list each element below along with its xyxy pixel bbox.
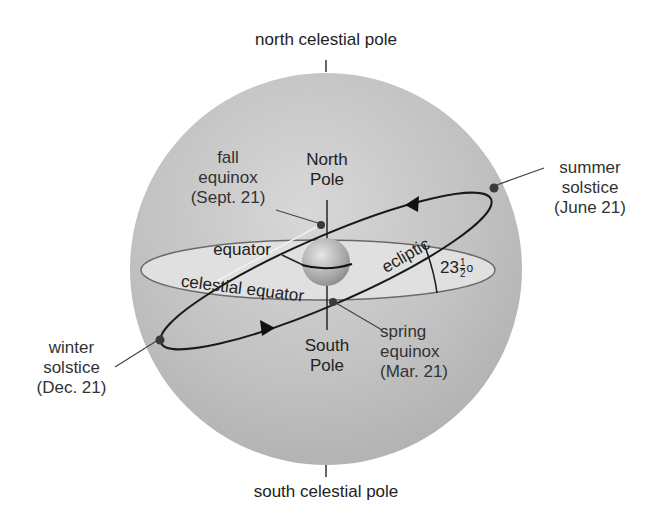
north-celestial-pole-label: north celestial pole bbox=[226, 30, 426, 50]
south-pole-line2: Pole bbox=[294, 356, 360, 376]
winter-solstice-line3: (Dec. 21) bbox=[24, 378, 119, 398]
south-celestial-pole-label: south celestial pole bbox=[226, 482, 426, 502]
summer-solstice-line1: summer bbox=[540, 158, 640, 178]
spring-equinox-point bbox=[329, 298, 337, 306]
winter-solstice-label: winter solstice (Dec. 21) bbox=[24, 338, 119, 398]
summer-solstice-point bbox=[490, 184, 499, 193]
south-pole-line1: South bbox=[294, 336, 360, 356]
summer-solstice-line3: (June 21) bbox=[540, 198, 640, 218]
tilt-angle-label: 2312o bbox=[440, 258, 500, 279]
spring-equinox-line2: equinox bbox=[380, 342, 466, 362]
north-pole-line2: Pole bbox=[294, 170, 360, 190]
south-pole-label: South Pole bbox=[294, 336, 360, 376]
fall-equinox-line1: fall bbox=[178, 148, 278, 168]
fall-equinox-point bbox=[317, 221, 325, 229]
summer-solstice-leader bbox=[494, 168, 544, 186]
fall-equinox-label: fall equinox (Sept. 21) bbox=[178, 148, 278, 208]
fall-equinox-line2: equinox bbox=[178, 168, 278, 188]
winter-solstice-line2: solstice bbox=[24, 358, 119, 378]
spring-equinox-line3: (Mar. 21) bbox=[380, 362, 466, 382]
north-pole-label: North Pole bbox=[294, 150, 360, 190]
tilt-degree-symbol: o bbox=[466, 261, 473, 275]
spring-equinox-line1: spring bbox=[380, 322, 466, 342]
fall-equinox-line3: (Sept. 21) bbox=[178, 188, 278, 208]
equator-label: equator bbox=[202, 240, 282, 260]
celestial-sphere-diagram bbox=[0, 0, 659, 524]
tilt-angle-value: 23 bbox=[440, 258, 459, 277]
tilt-fraction-den: 2 bbox=[460, 269, 466, 279]
summer-solstice-label: summer solstice (June 21) bbox=[540, 158, 640, 218]
north-pole-line1: North bbox=[294, 150, 360, 170]
earth-globe bbox=[302, 238, 350, 286]
spring-equinox-label: spring equinox (Mar. 21) bbox=[380, 322, 466, 382]
summer-solstice-line2: solstice bbox=[540, 178, 640, 198]
winter-solstice-line1: winter bbox=[24, 338, 119, 358]
winter-solstice-point bbox=[156, 336, 165, 345]
